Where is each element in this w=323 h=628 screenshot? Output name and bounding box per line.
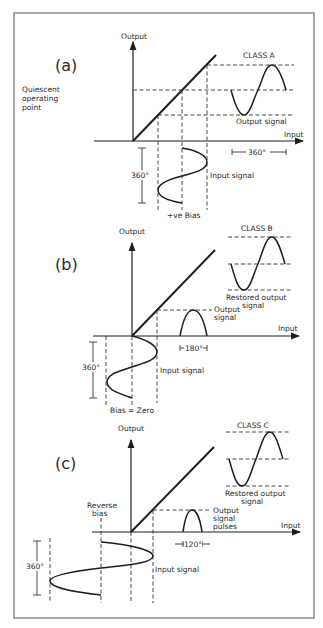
class-label-a: CLASS A: [243, 51, 276, 60]
panel-b: (b) CLASS B Output Input Restored output…: [55, 224, 299, 415]
panel-c: (c) CLASS C Output Input Restored output…: [25, 421, 300, 603]
y-axis-label-b: Output: [119, 227, 145, 236]
restored-output-waveform-b: [231, 237, 285, 290]
input-waveform-c: [50, 542, 153, 595]
output-signal-label-b: Output signal: [214, 305, 242, 322]
output-signal-label-a: Output signal: [236, 117, 287, 126]
transfer-characteristic-b: [132, 250, 215, 336]
x-axis-label-c: Input: [281, 521, 300, 530]
output-pulse-b: [180, 310, 207, 336]
panel-label-b: (b): [55, 255, 78, 274]
conduction-angle-b: 180°: [185, 344, 203, 353]
input-span-c: 360°: [26, 562, 44, 571]
input-signal-label-c: Input signal: [155, 565, 199, 574]
restored-output-label-c: Restored output signal: [225, 489, 288, 506]
x-axis-label-a: Input: [284, 130, 303, 139]
bias-label-a: +ve Bias: [167, 211, 201, 220]
output-signal-label-c: Output signal pulses: [213, 506, 241, 531]
bias-label-b: Bias = Zero: [110, 406, 154, 415]
panel-label-c: (c): [55, 454, 76, 473]
reverse-bias-label: Reverse bias: [87, 501, 120, 518]
x-axis-label-b: Input: [278, 324, 297, 333]
conduction-angle-c: 120°: [184, 540, 202, 549]
output-pulse-c: [183, 510, 202, 532]
class-label-b: CLASS B: [241, 224, 273, 233]
y-axis-label-a: Output: [121, 32, 147, 41]
transfer-characteristic-a: [133, 55, 216, 141]
y-axis-label-c: Output: [118, 424, 144, 433]
quiescent-label: Quiescent operating point: [22, 85, 62, 112]
input-span-b: 360°: [82, 363, 100, 372]
input-span-a: 360°: [131, 171, 149, 180]
transfer-characteristic-c: [131, 447, 214, 532]
input-signal-label-a: Input signal: [210, 171, 254, 180]
input-waveform-a: [158, 148, 207, 203]
class-label-c: CLASS C: [237, 421, 269, 430]
output-span-a: 360°: [248, 148, 266, 157]
panel-label-a: (a): [55, 56, 77, 75]
amplifier-class-diagram: (a) CLASS A Output Input Quiescent opera…: [0, 0, 323, 628]
panel-a: (a) CLASS A Output Input Quiescent opera…: [22, 32, 303, 220]
input-signal-label-b: Input signal: [160, 366, 204, 375]
figure-frame: [14, 13, 314, 618]
